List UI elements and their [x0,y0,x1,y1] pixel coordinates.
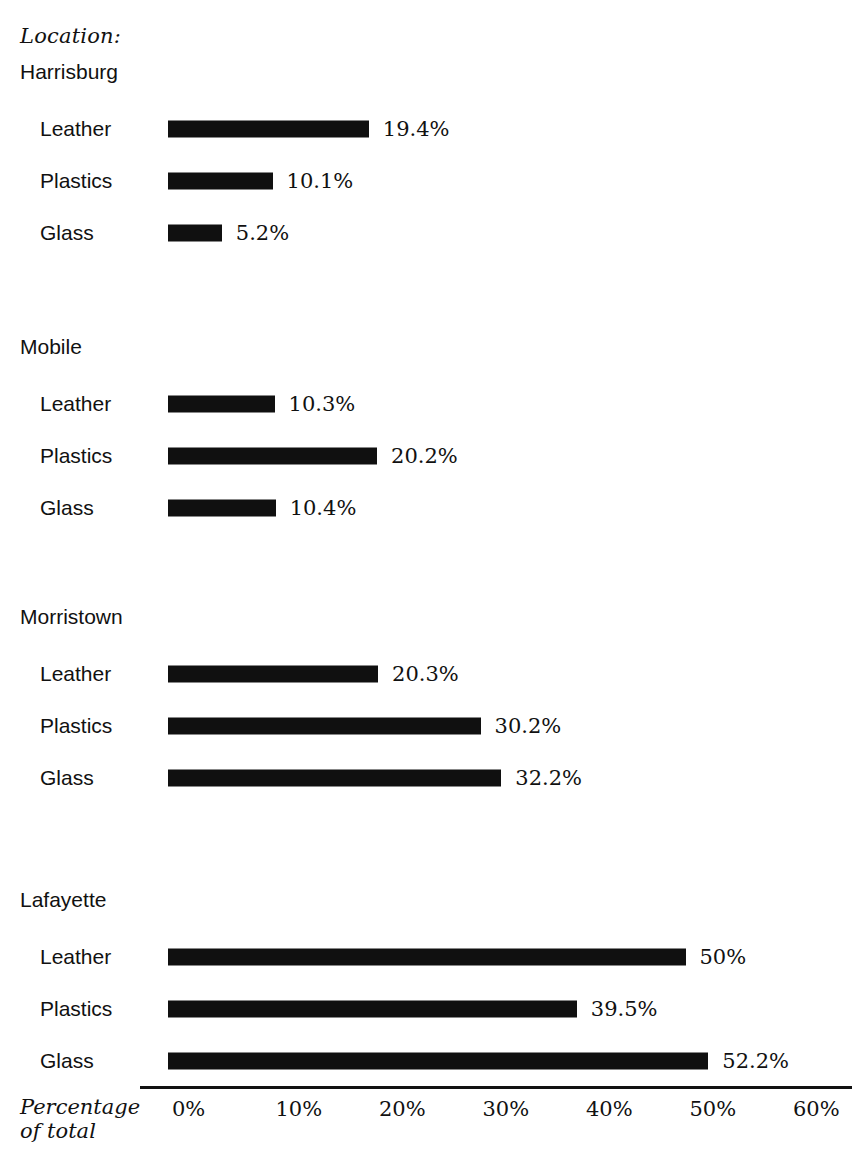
category-label: Glass [40,1049,94,1073]
bar-row: Glass52.2% [0,1044,859,1078]
bar-row: Glass5.2% [0,216,859,250]
bar [168,225,222,242]
bar-row: Plastics39.5% [0,992,859,1026]
bar-row: Plastics30.2% [0,709,859,743]
x-tick-label: 40% [586,1097,633,1121]
bar-value-label: 20.2% [391,444,458,468]
bar [168,1001,577,1018]
category-label: Plastics [40,169,112,193]
category-label: Glass [40,496,94,520]
bar-value-label: 10.4% [290,496,357,520]
bar-group: MorristownLeather20.3%Plastics30.2%Glass… [0,605,859,795]
category-label: Leather [40,117,111,141]
x-tick-label: 50% [690,1097,737,1121]
horizontal-bar-chart: Location: HarrisburgLeather19.4%Plastics… [0,0,859,1159]
bar-value-label: 19.4% [383,117,450,141]
bar-value-label: 10.1% [287,169,354,193]
bar-value-label: 50% [700,945,747,969]
bar-row: Glass10.4% [0,491,859,525]
x-tick-label: 30% [483,1097,530,1121]
bar-value-label: 52.2% [722,1049,789,1073]
bar-row: Leather19.4% [0,112,859,146]
bar-value-label: 5.2% [236,221,289,245]
bar [168,770,501,787]
group-label-lafayette: Lafayette [20,888,106,912]
category-label: Leather [40,392,111,416]
x-axis-caption: Percentage of total [20,1096,140,1143]
x-tick-label: 10% [276,1097,323,1121]
bar [168,666,378,683]
bar-row: Plastics20.2% [0,439,859,473]
bar-value-label: 20.3% [392,662,459,686]
x-axis-caption-line-1: Percentage [20,1096,140,1120]
bar [168,396,275,413]
bar-group: MobileLeather10.3%Plastics20.2%Glass10.4… [0,335,859,525]
category-label: Glass [40,766,94,790]
bar [168,173,273,190]
x-tick-label: 0% [172,1097,205,1121]
category-label: Glass [40,221,94,245]
category-label: Leather [40,662,111,686]
bar-row: Glass32.2% [0,761,859,795]
group-label-morristown: Morristown [20,605,123,629]
bar [168,500,276,517]
bar-group: LafayetteLeather50%Plastics39.5%Glass52.… [0,888,859,1078]
bar [168,448,377,465]
bar-row: Leather50% [0,940,859,974]
x-tick-label: 20% [379,1097,426,1121]
bar-row: Leather20.3% [0,657,859,691]
group-label-harrisburg: Harrisburg [20,60,118,84]
category-label: Leather [40,945,111,969]
x-axis-line [140,1086,852,1089]
bar-row: Leather10.3% [0,387,859,421]
x-tick-label: 60% [793,1097,840,1121]
bar [168,121,369,138]
bar-value-label: 30.2% [495,714,562,738]
bar [168,949,686,966]
bar-value-label: 39.5% [591,997,658,1021]
category-label: Plastics [40,714,112,738]
bar-value-label: 32.2% [515,766,582,790]
category-label: Plastics [40,444,112,468]
group-label-mobile: Mobile [20,335,82,359]
bar [168,718,481,735]
bar-value-label: 10.3% [289,392,356,416]
bar [168,1053,708,1070]
bar-group: HarrisburgLeather19.4%Plastics10.1%Glass… [0,60,859,250]
x-axis-caption-line-2: of total [20,1120,140,1144]
y-axis-title: Location: [20,24,121,48]
bar-row: Plastics10.1% [0,164,859,198]
category-label: Plastics [40,997,112,1021]
